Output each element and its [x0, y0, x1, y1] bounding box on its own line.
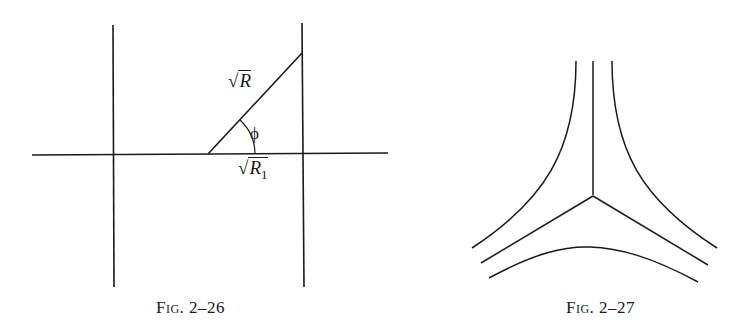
radicand-r: R — [249, 157, 261, 178]
radicand-r1: R1 — [248, 157, 267, 181]
label-phi: ϕ — [250, 124, 259, 144]
horizontal-axis-line — [32, 153, 388, 155]
label-sqrt-r: √R — [228, 70, 251, 92]
radical-sign: √ — [238, 157, 248, 178]
left-curve — [472, 61, 576, 248]
right-vertical-line — [302, 23, 304, 287]
caption-fig-2-26: Fig. 2–26 — [156, 298, 225, 318]
caption-fig-2-27: Fig. 2–27 — [566, 298, 635, 318]
radical-sign: √ — [228, 70, 238, 91]
figure-drawings — [0, 0, 746, 336]
bottom-curve — [489, 247, 698, 282]
subscript-1: 1 — [261, 167, 268, 182]
radicand-r: R — [238, 70, 251, 91]
label-sqrt-r1: √R1 — [238, 157, 268, 181]
left-vertical-line — [113, 25, 114, 287]
right-curve — [612, 61, 717, 248]
fig-2-27-diagram — [472, 61, 717, 282]
fig-2-26-diagram — [32, 23, 388, 287]
angle-phi: ϕ — [250, 124, 259, 143]
